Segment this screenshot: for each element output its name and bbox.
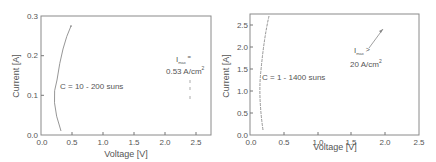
left-y-axis-label: Current [A] (11, 54, 21, 98)
left-xtick-1: 0.5 (66, 138, 78, 147)
left-imax-value: 0.53 A/cm2 (166, 65, 205, 76)
left-xtick-3: 1.5 (128, 138, 140, 147)
left-chart: 0.0 0.1 0.2 0.3 0.0 0.5 1.0 1.5 2.0 2.5 … (0, 0, 218, 162)
right-xtick-4: 2.0 (379, 138, 391, 147)
left-x-ticks: 0.0 0.5 1.0 1.5 2.0 2.5 (36, 132, 202, 147)
right-chart: 0.0 0.5 1.0 1.5 2.0 2.5 0.0 0.5 1.0 1.5 … (218, 0, 436, 162)
left-xtick-0: 0.0 (36, 138, 48, 147)
right-ytick-1: 0.5 (237, 109, 249, 118)
right-ytick-2: 1.0 (237, 87, 249, 96)
right-chart-panel: 0.0 0.5 1.0 1.5 2.0 2.5 0.0 0.5 1.0 1.5 … (218, 0, 436, 162)
right-xtick-0: 0.0 (245, 138, 257, 147)
right-ytick-5: 2.5 (237, 21, 249, 30)
left-x-axis-label: Voltage [V] (104, 149, 148, 159)
left-iv-curve (54, 26, 71, 131)
right-ytick-3: 1.5 (237, 65, 249, 74)
right-x-axis-label: Voltage [V] (313, 142, 357, 152)
right-arrowhead-icon (379, 29, 383, 33)
right-xtick-5: 2.5 (413, 138, 425, 147)
right-ytick-4: 2.0 (237, 43, 249, 52)
right-y-ticks: 0.0 0.5 1.0 1.5 2.0 2.5 (237, 21, 253, 140)
right-xtick-1: 0.5 (278, 138, 290, 147)
right-imax-label: Imax > (354, 46, 370, 56)
left-ytick-1: 0.1 (27, 91, 39, 100)
left-chart-panel: 0.0 0.1 0.2 0.3 0.0 0.5 1.0 1.5 2.0 2.5 … (0, 0, 218, 162)
left-xtick-4: 2.0 (159, 138, 171, 147)
left-ytick-3: 0.3 (27, 12, 39, 21)
left-imax-label: Imax = (176, 54, 191, 65)
right-y-axis-label: Current [A] (221, 54, 231, 98)
left-xtick-2: 1.0 (97, 138, 109, 147)
left-xtick-5: 2.5 (190, 138, 202, 147)
left-ytick-2: 0.2 (27, 51, 39, 60)
right-concentration-label: C = 1 - 1400 suns (262, 73, 325, 82)
right-imax-value: 20 A/cm2 (350, 58, 382, 69)
left-concentration-label: C = 10 - 200 suns (60, 82, 123, 91)
